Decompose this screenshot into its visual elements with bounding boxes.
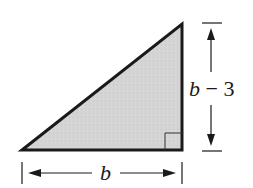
triangle-diagram: b − 3 b [0,0,253,188]
arrow-right-icon [163,169,176,177]
height-label: b − 3 [189,76,234,101]
arrow-left-icon [28,169,41,177]
triangle-figure: b − 3 b [0,0,253,188]
right-triangle [22,24,182,150]
arrow-down-icon [207,134,215,146]
base-label: b [100,160,111,185]
arrow-up-icon [207,28,215,40]
